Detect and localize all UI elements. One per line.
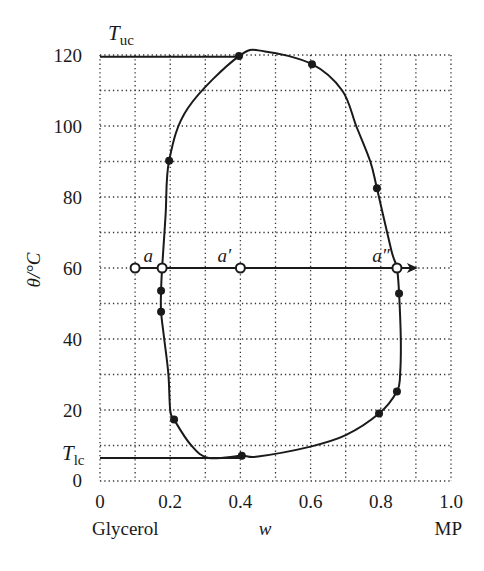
data-point-marker bbox=[373, 184, 381, 192]
x-axis-label: w bbox=[259, 518, 272, 539]
x-tick-label: 0.4 bbox=[229, 491, 253, 512]
phase-boundary-curve bbox=[161, 50, 401, 459]
x-left-component-label: Glycerol bbox=[92, 518, 158, 539]
open-point-marker bbox=[236, 264, 245, 273]
y-tick-label: 100 bbox=[54, 116, 83, 137]
open-point-marker bbox=[158, 264, 167, 273]
tie-point-label: a″ bbox=[372, 245, 391, 266]
phase-diagram-chart: aa′a″ 020406080100120 00.20.40.60.81.0 θ… bbox=[0, 0, 484, 571]
t-uc-label: Tuc bbox=[108, 21, 134, 48]
data-point-marker bbox=[170, 416, 178, 424]
x-tick-label: 1.0 bbox=[439, 491, 463, 512]
data-point-marker bbox=[375, 410, 383, 418]
coexistence-curve bbox=[161, 50, 401, 459]
x-right-component-label: MP bbox=[435, 518, 462, 539]
data-point-marker bbox=[157, 308, 165, 316]
tie-point-label: a bbox=[143, 245, 153, 266]
data-point-marker bbox=[308, 60, 316, 68]
data-point-marker bbox=[395, 290, 403, 298]
x-tick-label: 0.6 bbox=[299, 491, 323, 512]
y-tick-label: 80 bbox=[63, 187, 82, 208]
y-axis-ticks: 020406080100120 bbox=[54, 45, 83, 491]
open-point-marker bbox=[392, 264, 401, 273]
y-tick-label: 0 bbox=[73, 470, 83, 491]
data-point-marker bbox=[165, 157, 173, 165]
x-axis-ticks: 00.20.40.60.81.0 bbox=[95, 491, 463, 512]
data-point-marker bbox=[235, 52, 243, 60]
t-lc-label: Tlc bbox=[62, 441, 85, 468]
tie-line: aa′a″ bbox=[131, 245, 418, 273]
tie-point-label: a′ bbox=[218, 245, 233, 266]
y-tick-label: 40 bbox=[63, 329, 82, 350]
data-point-marker bbox=[393, 388, 401, 396]
x-tick-label: 0 bbox=[95, 491, 105, 512]
data-points bbox=[157, 52, 403, 460]
x-tick-label: 0.8 bbox=[369, 491, 393, 512]
y-tick-label: 20 bbox=[63, 400, 82, 421]
open-point-marker bbox=[131, 264, 140, 273]
x-tick-label: 0.2 bbox=[158, 491, 182, 512]
y-tick-label: 60 bbox=[63, 258, 82, 279]
y-tick-label: 120 bbox=[54, 45, 83, 66]
y-axis-label: θ/°C bbox=[23, 252, 44, 287]
data-point-marker bbox=[238, 452, 246, 460]
data-point-marker bbox=[157, 287, 165, 295]
